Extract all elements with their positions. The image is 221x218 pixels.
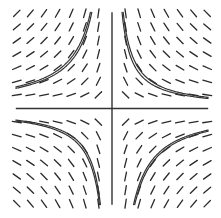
slope-segment <box>136 133 142 139</box>
slope-segment <box>190 174 197 180</box>
slope-segment <box>14 10 20 16</box>
slope-segment <box>190 160 197 165</box>
slope-segment <box>82 64 87 71</box>
slope-segment <box>138 9 140 18</box>
slope-segment <box>190 38 197 44</box>
slope-segment <box>96 77 100 85</box>
slope-segment <box>149 93 158 96</box>
slope-segment <box>40 134 48 137</box>
slope-segment <box>150 173 155 181</box>
slope-segment <box>203 121 212 122</box>
slope-segment <box>69 159 74 166</box>
solution-curve-qI <box>123 12 209 98</box>
slope-segment <box>204 174 211 179</box>
slope-segment <box>177 23 183 30</box>
slope-segment <box>150 146 156 152</box>
slope-segment <box>82 78 88 84</box>
slope-segment <box>40 160 47 166</box>
slope-segment <box>190 66 198 70</box>
slope-segment <box>203 66 211 70</box>
slope-segment <box>83 159 87 167</box>
slope-field-diagram <box>0 0 221 218</box>
slope-segment <box>176 147 184 152</box>
slope-segment <box>69 200 73 208</box>
slope-segment <box>83 50 87 58</box>
slope-segment <box>203 134 212 136</box>
slope-segment <box>54 147 61 152</box>
slope-segment <box>203 52 211 56</box>
slope-segment <box>176 65 184 70</box>
slope-segment <box>204 187 211 193</box>
slope-segment <box>124 132 128 140</box>
slope-segment <box>84 9 86 18</box>
slope-segment <box>151 23 155 31</box>
slope-segment <box>98 172 100 181</box>
slope-segment <box>40 51 47 57</box>
slope-segment <box>12 94 21 95</box>
slope-segment <box>136 78 142 84</box>
slope-segment <box>26 134 35 137</box>
slope-segment <box>69 51 74 58</box>
slope-segment <box>203 161 211 165</box>
slope-segment <box>40 65 48 70</box>
slope-segment <box>55 173 61 180</box>
slope-segment <box>122 92 128 98</box>
slope-segment <box>138 199 140 208</box>
slope-segment <box>27 38 34 44</box>
slope-segment <box>98 9 99 18</box>
slope-segment <box>204 38 211 43</box>
slope-segment <box>135 93 143 97</box>
slope-segment <box>190 187 196 193</box>
slope-segment <box>164 37 170 44</box>
slope-segment <box>151 186 155 194</box>
slope-segment <box>13 161 21 165</box>
slope-segment <box>163 51 169 57</box>
slope-segment <box>162 121 171 123</box>
slope-segment <box>68 146 74 152</box>
slope-segment <box>176 160 183 166</box>
slope-segment <box>95 92 101 98</box>
slope-segment <box>190 52 197 57</box>
slope-segment <box>122 119 128 125</box>
slope-segment <box>95 119 101 125</box>
slope-segment <box>176 134 184 137</box>
slope-segment <box>150 37 155 45</box>
slope-segment <box>27 200 33 207</box>
slope-segment <box>41 200 46 207</box>
slope-segment <box>26 147 34 151</box>
slope-segment <box>69 9 73 17</box>
slope-segment <box>13 52 21 56</box>
slope-segment <box>14 201 20 207</box>
slope-segment <box>124 63 127 72</box>
slope-segment <box>26 94 35 95</box>
slope-segment <box>189 121 198 122</box>
slope-segment <box>124 145 127 154</box>
slope-segment <box>67 79 74 84</box>
slope-segment <box>41 10 46 17</box>
slope-segment <box>12 134 21 136</box>
slope-segment <box>177 187 183 194</box>
slope-segment <box>189 80 198 83</box>
slope-segment <box>27 174 34 180</box>
slope-segment <box>41 187 47 194</box>
slope-segment <box>55 9 59 17</box>
slope-segment <box>135 120 143 124</box>
slope-segment <box>191 200 197 207</box>
slope-segment <box>151 200 155 208</box>
slope-segment <box>125 50 127 59</box>
slope-segment <box>13 187 20 193</box>
slope-segment <box>124 77 128 85</box>
slope-segment <box>163 65 170 70</box>
slope-segment <box>69 173 74 181</box>
slope-segment <box>13 66 21 70</box>
slope-segment <box>27 160 34 165</box>
slope-segment <box>40 94 49 96</box>
slope-segment <box>190 24 196 30</box>
slope-segment <box>164 186 169 193</box>
slope-segment <box>27 10 33 17</box>
slope-segment <box>13 174 20 179</box>
slope-segment <box>190 147 198 151</box>
slope-segment <box>55 200 59 208</box>
slope-segment <box>204 10 210 16</box>
slope-segment <box>54 134 62 138</box>
